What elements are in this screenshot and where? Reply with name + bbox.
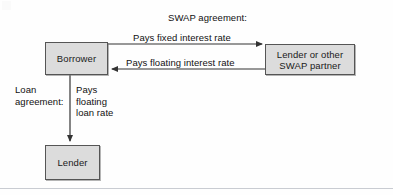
caption-pays-floating-interest-rate: Pays floating interest rate	[126, 57, 235, 69]
node-lender[interactable]: Lender	[45, 145, 100, 180]
diagram-canvas: Borrower Lender or other SWAP partner Le…	[0, 0, 393, 195]
node-swap-partner-label: Lender or other SWAP partner	[277, 49, 343, 71]
node-borrower-label: Borrower	[57, 53, 96, 64]
bottom-divider	[0, 188, 393, 189]
caption-swap-agreement-title: SWAP agreement:	[168, 12, 247, 24]
caption-pays-floating-loan-rate: Pays floating loan rate	[76, 84, 113, 119]
node-lender-label: Lender	[57, 157, 87, 168]
node-borrower[interactable]: Borrower	[45, 42, 108, 75]
caption-pays-fixed-interest-rate: Pays fixed interest rate	[133, 32, 231, 44]
caption-loan-agreement: Loan agreement:	[15, 84, 64, 107]
node-swap-partner[interactable]: Lender or other SWAP partner	[265, 44, 355, 75]
